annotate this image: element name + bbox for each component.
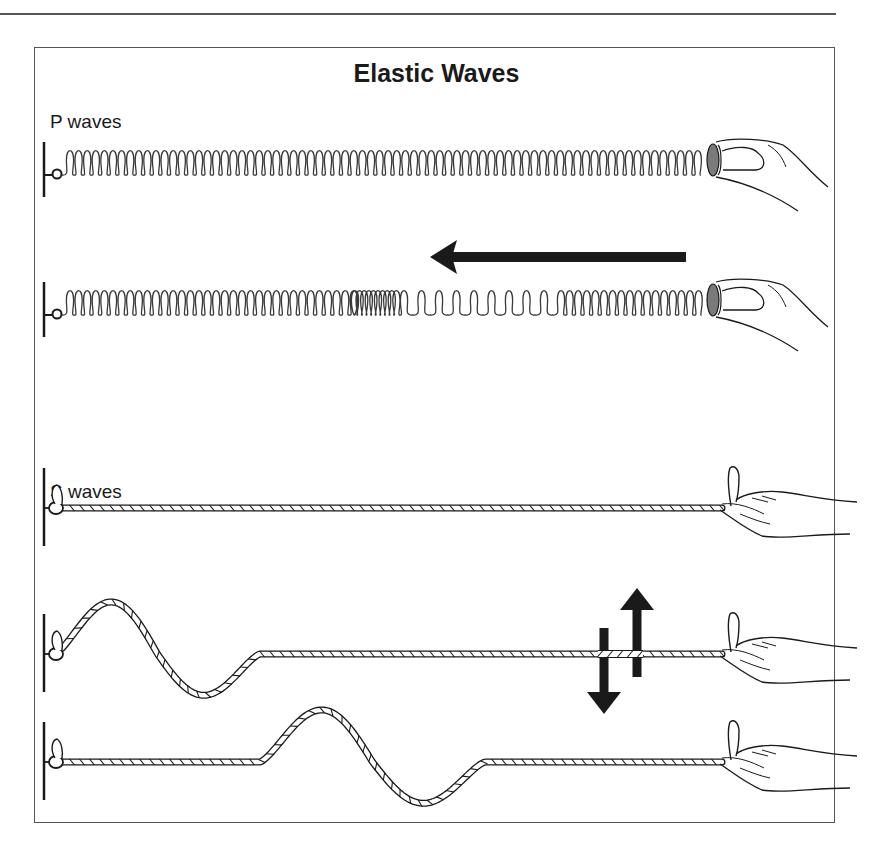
spring-at-rest <box>44 139 828 211</box>
hand-top-outline <box>736 745 857 756</box>
rope-free-end <box>728 467 739 506</box>
rope-twist <box>124 603 125 611</box>
hand-bottom-outline <box>720 764 850 791</box>
anchor-ring <box>53 170 62 179</box>
hand-top-outline <box>716 139 828 187</box>
hand-knuckle-line <box>768 285 786 307</box>
arrow-shaft <box>600 628 609 696</box>
arrow-head <box>587 692 621 714</box>
rope-transverse-pulse-far <box>44 707 857 806</box>
rope-twist <box>232 675 240 676</box>
propagation-arrow-left-icon <box>430 240 686 274</box>
rope-twist <box>266 754 274 755</box>
rope-at-rest <box>44 467 857 546</box>
hand-knuckle-line <box>768 145 786 167</box>
s-wave-illustrations <box>44 467 857 807</box>
spring-end-disk <box>707 284 719 316</box>
rope-twist <box>240 667 248 668</box>
hand-bottom-outline <box>720 510 850 537</box>
spring-compressional-pulse <box>44 240 828 351</box>
rope-outline <box>62 602 722 695</box>
hand-bottom-outline <box>716 317 798 351</box>
hand-top-outline <box>736 491 857 502</box>
arrow-shaft <box>633 606 642 677</box>
rope-knot-tail <box>52 485 62 504</box>
spring-coil <box>62 151 701 175</box>
spring-end-disk <box>707 144 719 176</box>
wave-illustrations <box>0 0 873 861</box>
rope-knot-tail <box>52 739 62 758</box>
hand-bottom-outline <box>716 177 798 211</box>
rope-free-end <box>728 613 739 652</box>
hand-top-outline <box>736 637 857 648</box>
arrow-head <box>620 588 654 610</box>
p-wave-illustrations <box>44 139 828 351</box>
rope-transverse-pulse-near <box>44 599 857 698</box>
spring-coil <box>62 291 702 315</box>
elastic-waves-diagram: Elastic Waves P waves S waves <box>0 0 873 861</box>
rope-free-end <box>728 721 739 760</box>
hand-top-outline <box>716 279 828 327</box>
arrow-up-icon <box>620 588 654 677</box>
hand-bottom-outline <box>720 656 850 683</box>
rope-body <box>62 602 722 695</box>
arrow-down-icon <box>587 628 621 714</box>
rope-knot-tail <box>52 631 62 650</box>
hand-fingers <box>722 287 764 310</box>
arrow-shaft <box>452 252 686 262</box>
anchor-ring <box>53 310 62 319</box>
hand-fingers <box>722 147 764 170</box>
